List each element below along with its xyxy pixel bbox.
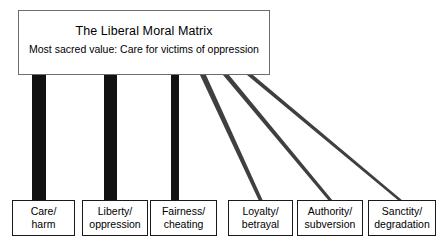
diagram-subtitle: Most sacred value: Care for victims of o…	[29, 42, 259, 56]
foundation-box-liberty-oppression[interactable]: Liberty/ oppression	[82, 200, 148, 236]
foundation-label-line1: Loyalty/	[242, 205, 278, 219]
title-box: The Liberal Moral Matrix Most sacred val…	[18, 10, 270, 75]
foundation-label-line1: Sanctity/	[382, 205, 422, 219]
foundation-label-line2: subversion	[305, 218, 356, 232]
connector-liberty-oppression	[104, 74, 117, 201]
foundation-label-line1: Authority/	[308, 205, 352, 219]
foundation-label-line2: harm	[32, 218, 56, 232]
foundation-label-line1: Care/	[31, 205, 57, 219]
connector-fairness-cheating	[171, 74, 179, 201]
connector-sanctity-degradation	[247, 75, 403, 201]
foundation-box-authority-subversion[interactable]: Authority/ subversion	[297, 200, 363, 236]
foundation-box-sanctity-degradation[interactable]: Sanctity/ degradation	[368, 200, 436, 236]
connector-authority-subversion	[223, 75, 333, 201]
foundation-label-line2: oppression	[89, 218, 140, 232]
connector-loyalty-betrayal	[200, 75, 263, 201]
foundation-box-care-harm[interactable]: Care/ harm	[12, 200, 75, 236]
foundation-label-line2: degradation	[374, 218, 429, 232]
connector-care-harm	[32, 74, 46, 201]
moral-matrix-diagram: The Liberal Moral Matrix Most sacred val…	[0, 0, 446, 246]
foundation-label-line1: Liberty/	[98, 205, 132, 219]
foundation-label-line1: Fairness/	[162, 205, 205, 219]
foundation-label-line2: betrayal	[242, 218, 279, 232]
foundation-label-line2: cheating	[164, 218, 204, 232]
foundation-box-fairness-cheating[interactable]: Fairness/ cheating	[150, 200, 217, 236]
diagram-title: The Liberal Moral Matrix	[75, 24, 212, 39]
foundation-box-loyalty-betrayal[interactable]: Loyalty/ betrayal	[228, 200, 293, 236]
